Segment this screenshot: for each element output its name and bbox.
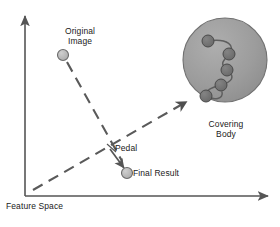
feature-space-label: Feature Space	[6, 201, 63, 211]
original-image-label-line1: Original	[52, 26, 108, 36]
covering-body-label: Covering Body	[196, 119, 256, 139]
final-result-label: Final Result	[133, 168, 179, 178]
final-result-node	[122, 168, 133, 179]
covering-body-label-line1: Covering	[196, 119, 256, 129]
covering-body-node	[200, 90, 212, 102]
covering-body-node	[223, 48, 235, 60]
diagram-canvas: Original Image Covering Body Pedal Final…	[0, 0, 280, 227]
covering-body-label-line2: Body	[196, 129, 256, 139]
original-image-label-line2: Image	[52, 36, 108, 46]
diagram-svg	[0, 0, 280, 227]
connector-original-to-pedal	[67, 62, 122, 161]
covering-body-node	[221, 64, 233, 76]
covering-body-node	[202, 35, 214, 47]
pedal-label: Pedal	[115, 143, 137, 153]
original-image-node	[58, 50, 69, 61]
covering-body-node	[215, 79, 227, 91]
original-image-label: Original Image	[52, 26, 108, 46]
